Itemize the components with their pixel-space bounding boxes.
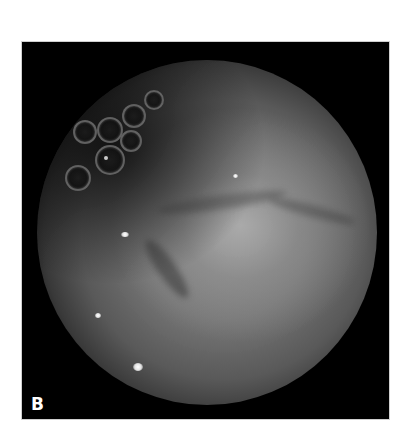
- light-reflection: [121, 232, 129, 237]
- air-bubble: [144, 90, 164, 110]
- air-bubble: [73, 120, 97, 144]
- air-bubble: [65, 165, 91, 191]
- light-reflection: [233, 174, 238, 178]
- panel-label: B: [31, 396, 44, 413]
- air-bubble: [95, 145, 125, 175]
- air-bubble: [122, 104, 146, 128]
- bubble-glint: [104, 156, 108, 160]
- light-reflection: [133, 363, 143, 371]
- dark-region: [37, 60, 377, 405]
- figure-panel: B: [22, 42, 389, 419]
- light-reflection: [95, 313, 101, 318]
- air-bubble: [120, 130, 142, 152]
- endoscopic-field-of-view: [37, 60, 377, 405]
